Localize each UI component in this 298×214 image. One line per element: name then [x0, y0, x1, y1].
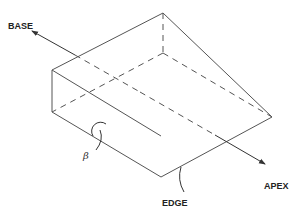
slope-edge	[52, 70, 272, 117]
apex-label: APEX	[264, 181, 289, 191]
base-label: BASE	[8, 21, 33, 31]
hidden-edges	[52, 13, 272, 117]
angle-indicator	[92, 122, 106, 150]
wedge-diagram	[0, 0, 298, 214]
slope-face	[52, 70, 161, 177]
beta-angle-label: β	[83, 150, 89, 161]
base-apex-axis	[32, 31, 265, 164]
edge-pointer	[180, 167, 184, 192]
edge-label: EDGE	[162, 198, 188, 208]
